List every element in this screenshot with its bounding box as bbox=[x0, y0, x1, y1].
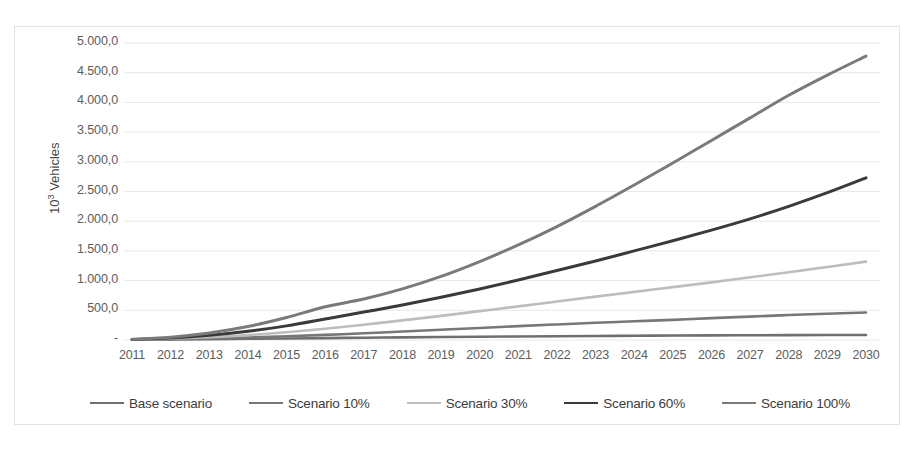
legend-swatch-icon bbox=[564, 402, 598, 404]
chart-plot-svg bbox=[0, 0, 918, 459]
legend-label: Base scenario bbox=[129, 396, 212, 411]
x-tick-label: 2028 bbox=[769, 348, 809, 362]
x-tick-label: 2026 bbox=[691, 348, 731, 362]
legend-item-scenario-60[interactable]: Scenario 60% bbox=[564, 396, 685, 411]
x-tick-label: 2014 bbox=[228, 348, 268, 362]
x-tick-label: 2025 bbox=[653, 348, 693, 362]
x-tick-label: 2011 bbox=[112, 348, 152, 362]
y-tick-label: 4.000,0 bbox=[77, 93, 118, 107]
x-tick-label: 2029 bbox=[807, 348, 847, 362]
x-tick-label: 2023 bbox=[576, 348, 616, 362]
y-tick-label: 3.500,0 bbox=[77, 123, 118, 137]
x-tick-label: 2030 bbox=[846, 348, 886, 362]
y-tick-label: 5.000,0 bbox=[77, 34, 118, 48]
legend-item-scenario-30[interactable]: Scenario 30% bbox=[407, 396, 528, 411]
y-tick-label: - bbox=[114, 331, 118, 345]
legend-label: Scenario 30% bbox=[446, 396, 528, 411]
x-tick-label: 2027 bbox=[730, 348, 770, 362]
x-tick-label: 2015 bbox=[267, 348, 307, 362]
gridlines bbox=[124, 43, 880, 340]
legend-item-scenario-100[interactable]: Scenario 100% bbox=[722, 396, 850, 411]
x-tick-label: 2024 bbox=[614, 348, 654, 362]
x-tick-label: 2017 bbox=[344, 348, 384, 362]
y-tick-label: 4.500,0 bbox=[77, 64, 118, 78]
y-tick-label: 1.500,0 bbox=[77, 242, 118, 256]
x-tick-label: 2019 bbox=[421, 348, 461, 362]
legend-label: Scenario 100% bbox=[761, 396, 850, 411]
chart-figure: 5.000,04.500,04.000,03.500,03.000,02.500… bbox=[0, 0, 918, 459]
y-tick-label: 2.000,0 bbox=[77, 212, 118, 226]
legend-item-scenario-10[interactable]: Scenario 10% bbox=[249, 396, 370, 411]
x-tick-label: 2020 bbox=[460, 348, 500, 362]
y-tick-label: 3.000,0 bbox=[77, 153, 118, 167]
legend-label: Scenario 60% bbox=[603, 396, 685, 411]
x-tick-label: 2016 bbox=[305, 348, 345, 362]
series-line-scenario-100 bbox=[132, 56, 866, 339]
y-axis-title: 103 Vehicles bbox=[46, 118, 62, 238]
x-tick-label: 2018 bbox=[382, 348, 422, 362]
line-chart: 5.000,04.500,04.000,03.500,03.000,02.500… bbox=[0, 0, 918, 459]
legend-item-base-scenario[interactable]: Base scenario bbox=[90, 396, 212, 411]
chart-legend: Base scenarioScenario 10%Scenario 30%Sce… bbox=[90, 392, 850, 414]
legend-swatch-icon bbox=[90, 402, 124, 404]
y-tick-label: 500,0 bbox=[87, 301, 118, 315]
legend-swatch-icon bbox=[249, 402, 283, 404]
x-tick-label: 2022 bbox=[537, 348, 577, 362]
x-tick-label: 2013 bbox=[189, 348, 229, 362]
legend-swatch-icon bbox=[407, 402, 441, 404]
legend-label: Scenario 10% bbox=[288, 396, 370, 411]
x-tick-label: 2012 bbox=[151, 348, 191, 362]
x-tick-label: 2021 bbox=[498, 348, 538, 362]
series-lines bbox=[132, 56, 866, 340]
y-tick-label: 2.500,0 bbox=[77, 183, 118, 197]
y-tick-label: 1.000,0 bbox=[77, 272, 118, 286]
legend-swatch-icon bbox=[722, 402, 756, 404]
